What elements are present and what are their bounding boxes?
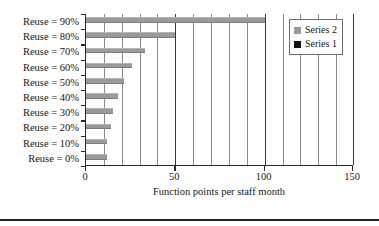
y-axis-tick-label: Reuse = 80% [23,29,79,44]
bar-reuse-30 [86,108,113,114]
chart-legend: Series 2 Series 1 [289,19,343,55]
x-axis-title: Function points per staff month [85,186,353,197]
bottom-divider [0,219,379,221]
y-axis-tick-label: Reuse = 60% [23,60,79,75]
bar-chart: Reuse = 90% Reuse = 80% Reuse = 70% Reus… [0,0,379,226]
bar-reuse-10 [86,139,107,145]
legend-item-series-1: Series 1 [294,37,337,51]
y-axis-tick-label: Reuse = 40% [23,90,79,105]
y-axis-tick-label: Reuse = 70% [23,44,79,59]
bar-reuse-80 [86,32,175,38]
x-axis-tick-label: 50 [169,170,180,183]
y-axis-tick-label: Reuse = 30% [23,105,79,120]
bar-reuse-0 [86,154,107,160]
x-axis-tick-labels: 0 50 100 150 [85,170,353,184]
y-axis-tick-label: Reuse = 50% [23,75,79,90]
y-axis-tick-label: Reuse = 20% [23,120,79,135]
x-axis-tick-label: 0 [82,170,87,183]
x-axis-tick-label: 100 [256,170,272,183]
bar-reuse-50 [86,78,124,84]
legend-swatch-icon [294,27,301,34]
gridline-150 [353,14,354,165]
legend-label: Series 1 [305,38,337,50]
y-axis-category-labels: Reuse = 90% Reuse = 80% Reuse = 70% Reus… [0,14,83,166]
legend-label: Series 2 [305,24,337,36]
y-axis-tick-label: Reuse = 90% [23,14,79,29]
legend-swatch-icon [294,41,301,48]
bar-reuse-90 [86,17,265,23]
bar-reuse-20 [86,124,111,130]
bar-reuse-60 [86,63,132,69]
legend-item-series-2: Series 2 [294,23,337,37]
y-axis-tick-label: Reuse = 0% [28,151,79,166]
bar-reuse-40 [86,93,118,99]
bar-reuse-70 [86,48,145,54]
x-axis-tick-label: 150 [344,170,360,183]
y-axis-tick-label: Reuse = 10% [23,136,79,151]
chart-figure: Reuse = 90% Reuse = 80% Reuse = 70% Reus… [0,0,379,226]
